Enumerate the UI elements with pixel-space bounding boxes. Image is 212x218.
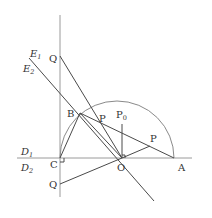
label-p-upper: P [99,113,106,124]
line-e [29,58,154,201]
label-p-right: P [150,133,157,144]
label-q-lower: Q [49,179,57,190]
label-b: B [67,108,74,119]
label-c: C [50,159,58,170]
label-e1: E1 [29,48,41,61]
label-a: A [177,162,186,173]
segment-b-c [60,113,80,158]
label-o: O [117,162,125,173]
label-e2: E2 [22,63,34,76]
segment-o-p [122,146,150,158]
label-q-upper: Q [49,53,57,64]
geometry-diagram: E1 E2 Q B P P0 P D1 D2 C O A Q [0,0,212,218]
label-d2: D2 [20,162,33,175]
right-angle-mark-c [60,158,64,162]
segment-q-o [60,56,122,158]
segment-o-q [60,158,122,184]
label-d1: D1 [20,146,33,159]
label-p0: P0 [116,109,127,122]
